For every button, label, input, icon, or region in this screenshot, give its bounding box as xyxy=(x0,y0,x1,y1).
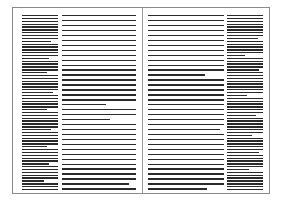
text-line xyxy=(227,101,263,102)
text-line xyxy=(62,139,136,140)
text-line xyxy=(22,38,58,39)
text-line xyxy=(62,119,110,120)
text-line xyxy=(227,149,263,150)
text-line xyxy=(62,129,136,130)
text-line xyxy=(22,32,58,33)
text-line xyxy=(227,18,263,19)
text-line xyxy=(148,139,224,140)
text-line xyxy=(148,15,224,16)
right-margin-column xyxy=(227,15,263,192)
text-line xyxy=(227,140,263,141)
text-line xyxy=(22,103,58,104)
text-line xyxy=(227,26,263,27)
text-line xyxy=(227,126,263,127)
text-line xyxy=(62,35,136,36)
text-line xyxy=(227,58,263,59)
text-line xyxy=(227,63,263,64)
text-line xyxy=(227,103,263,104)
text-line xyxy=(227,129,263,130)
text-line xyxy=(22,46,58,47)
text-line xyxy=(22,24,58,25)
text-line xyxy=(148,119,224,120)
text-line xyxy=(62,69,136,70)
text-line xyxy=(227,89,263,90)
text-line xyxy=(148,89,224,90)
text-line xyxy=(227,115,256,116)
text-line xyxy=(148,104,224,105)
text-line xyxy=(22,189,58,190)
text-line xyxy=(62,164,136,165)
text-line xyxy=(22,143,58,144)
text-line xyxy=(227,132,263,133)
text-line xyxy=(22,35,58,36)
text-line xyxy=(227,123,263,124)
text-line xyxy=(22,61,58,62)
text-line xyxy=(227,172,263,173)
text-line xyxy=(22,81,58,82)
left-main-column xyxy=(62,15,136,193)
text-line xyxy=(227,83,263,84)
text-line xyxy=(22,109,47,110)
text-line xyxy=(227,78,263,79)
text-line xyxy=(62,89,136,90)
text-line xyxy=(22,58,49,59)
text-line xyxy=(227,35,263,36)
text-line xyxy=(227,160,263,161)
text-line xyxy=(22,177,58,178)
text-line xyxy=(22,106,58,107)
text-line xyxy=(22,52,58,53)
text-line xyxy=(22,101,58,102)
text-line xyxy=(227,166,263,167)
text-line xyxy=(62,65,136,66)
text-line xyxy=(22,44,58,45)
text-line xyxy=(22,95,58,96)
text-line xyxy=(22,149,58,150)
text-line xyxy=(227,86,263,87)
text-line xyxy=(62,114,136,115)
text-line xyxy=(227,163,263,164)
text-line xyxy=(148,45,224,46)
text-line xyxy=(62,45,136,46)
text-line xyxy=(227,41,263,42)
text-line xyxy=(22,89,58,90)
text-line xyxy=(148,84,224,85)
text-line xyxy=(22,166,58,167)
text-line xyxy=(227,38,258,39)
text-line xyxy=(148,55,224,56)
text-line xyxy=(148,99,224,100)
text-line xyxy=(148,168,224,169)
text-line xyxy=(148,40,224,41)
text-line xyxy=(227,72,263,73)
text-line xyxy=(22,18,58,19)
text-line xyxy=(227,186,263,187)
text-line xyxy=(148,20,224,21)
text-line xyxy=(22,135,58,136)
text-line xyxy=(22,86,58,87)
text-line xyxy=(148,114,224,115)
text-line xyxy=(22,92,53,93)
text-line xyxy=(62,124,136,125)
text-line xyxy=(148,178,224,179)
text-line xyxy=(22,169,58,170)
text-line xyxy=(148,79,224,80)
text-line xyxy=(227,169,249,170)
text-line xyxy=(22,15,58,16)
text-line xyxy=(227,135,252,136)
text-line xyxy=(148,144,224,145)
text-line xyxy=(148,60,224,61)
text-line xyxy=(22,112,58,113)
text-line xyxy=(22,172,58,173)
text-line xyxy=(227,44,263,45)
text-line xyxy=(148,134,224,135)
text-line xyxy=(227,49,263,50)
text-line xyxy=(22,175,58,176)
text-line xyxy=(22,69,58,70)
text-line xyxy=(22,78,58,79)
text-line xyxy=(227,21,263,22)
text-line xyxy=(22,21,58,22)
text-line xyxy=(148,65,224,66)
text-line xyxy=(62,188,136,189)
text-line xyxy=(62,144,136,145)
text-line xyxy=(148,149,224,150)
text-line xyxy=(62,15,136,16)
